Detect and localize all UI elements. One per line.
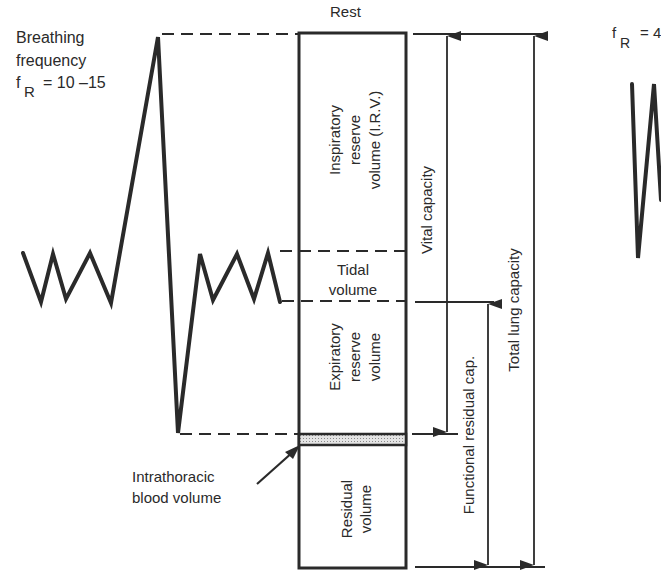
svg-text:Expiratory: Expiratory	[326, 323, 343, 391]
svg-text:reserve: reserve	[346, 332, 363, 382]
svg-text:blood volume: blood volume	[132, 489, 221, 506]
svg-text:volume: volume	[366, 333, 383, 381]
tidal-volume-label: Tidal volume	[329, 261, 377, 298]
svg-text:Inspiratory: Inspiratory	[326, 104, 343, 175]
deep-breathing-frequency-label: f R = 4	[612, 24, 661, 51]
fr-value: = 10 –15	[43, 74, 106, 91]
svg-text:reserve: reserve	[346, 115, 363, 165]
blood-volume-pointer	[257, 451, 294, 484]
svg-text:volume: volume	[329, 281, 377, 298]
svg-text:volume (I.R.V.): volume (I.R.V.)	[366, 91, 383, 190]
capacity-reference-lines	[412, 34, 545, 567]
breathing-label: Breathing	[16, 29, 85, 46]
frc-label: Functional residual cap.	[460, 356, 477, 514]
blood-volume-annotation: Intrathoracic blood volume	[132, 445, 300, 506]
svg-text:Residual: Residual	[338, 480, 355, 538]
rest-label: Rest	[330, 3, 362, 20]
erv-label: Expiratory reserve volume	[326, 323, 383, 391]
spirogram-trace	[23, 37, 280, 433]
residual-volume-label: Residual volume	[338, 480, 374, 538]
svg-text:Tidal: Tidal	[337, 261, 369, 278]
breathing-frequency-label: Breathing frequency f R = 10 –15	[16, 29, 106, 100]
frequency-label: frequency	[16, 52, 86, 69]
fr-subscript-right: R	[620, 35, 630, 51]
tlc-label: Total lung capacity	[505, 248, 522, 372]
vital-capacity-label: Vital capacity	[418, 165, 435, 254]
blood-volume-strip	[299, 434, 406, 445]
fr-symbol: f	[16, 74, 21, 91]
irv-label: Inspiratory reserve volume (I.R.V.)	[326, 91, 383, 190]
spirogram-trace-deep	[632, 84, 661, 258]
svg-text:volume: volume	[357, 485, 374, 533]
fr-subscript: R	[24, 83, 35, 100]
fr-symbol-right: f	[612, 24, 617, 41]
svg-text:Intrathoracic: Intrathoracic	[132, 468, 215, 485]
fr-value-right: = 4	[640, 24, 661, 41]
lung-volume-diagram: Breathing frequency f R = 10 –15 f R = 4…	[0, 0, 661, 571]
